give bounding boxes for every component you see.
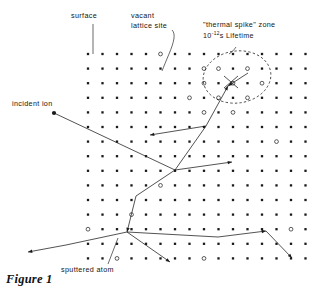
vacant-lattice-site [188,96,192,100]
lattice-atom [261,170,263,172]
lattice-atom [275,82,277,84]
lattice-atom [116,67,118,69]
lattice-atom [87,199,89,201]
lattice-atom [261,97,263,99]
lattice-atom [130,53,132,55]
lattice-atom [130,82,132,84]
lattice-atom [217,111,219,113]
lattice-atom [87,257,89,259]
vacant-lattice-site [217,67,221,71]
vacant-lattice-site [159,184,163,188]
lattice-atom [304,184,306,186]
lattice-atom [188,155,190,157]
vacant-lattice-site [246,96,250,100]
lattice-atom [246,170,248,172]
lattice-atom [145,199,147,201]
lattice-atom [159,140,161,142]
lattice-atom [261,111,263,113]
lattice-atom [130,67,132,69]
label-surface: surface [71,11,97,20]
lattice-atom [217,170,219,172]
lattice-atom [290,213,292,215]
lattice-atom [159,199,161,201]
lattice-atom [203,170,205,172]
lattice-atom [304,155,306,157]
lattice-atom [87,140,89,142]
lattice-atom [130,155,132,157]
lattice-atom [87,170,89,172]
recoil-arrowhead [150,133,154,136]
lattice-atom [101,184,103,186]
label-thermal-spike-zone: "thermal spike" zone [203,20,275,29]
lattice-atom [116,53,118,55]
lattice-atom [203,53,205,55]
lattice-atom [232,170,234,172]
lattice-atom [188,257,190,259]
lattice-atom [217,126,219,128]
lattice-atom [246,213,248,215]
lattice-atom [217,184,219,186]
lattice-atom [101,67,103,69]
lattice-atom [290,53,292,55]
lattice-atom [174,213,176,215]
lattice-atom [203,97,205,99]
lattice-atom [174,97,176,99]
lattice-atom [130,97,132,99]
lattice-atom [174,184,176,186]
lattice-atom [203,199,205,201]
lattice-atom [101,243,103,245]
lattice-atom [116,155,118,157]
cascade-track-branch-left-recoil [150,126,206,135]
lattice-atom [304,111,306,113]
label-sputtered-atom: sputtered atom [61,265,114,274]
lattice-atom [130,111,132,113]
cascade-track-branch-down [136,170,175,196]
lattice-atom [130,184,132,186]
lattice-atom [159,111,161,113]
label-incident-ion: incident ion [12,99,53,108]
cascade-track-group [28,73,292,262]
lattice-atom [145,111,147,113]
lattice-atom [217,213,219,215]
label-thermal-spike-lifetime: 10-12s Lifetime [203,31,254,40]
lattice-atom [130,243,132,245]
lattice-atom [159,257,161,259]
vacant-lattice-site [159,52,163,56]
lattice-atom [188,111,190,113]
lattice-atom [261,184,263,186]
lattice-atom [275,257,277,259]
lattice-atom [304,228,306,230]
lattice-atom [290,243,292,245]
lattice-atom [145,257,147,259]
lattice-atom [145,82,147,84]
collision-cascade-diagram: surface vacant lattice site "thermal spi… [0,0,316,295]
lattice-atom [275,213,277,215]
lattice-atom [275,170,277,172]
lattice-atom [261,140,263,142]
lattice-atom [304,97,306,99]
lattice-atom [304,67,306,69]
lattice-atom [101,126,103,128]
lattice-atom [116,184,118,186]
lattice-atom [304,243,306,245]
lattice-atom [217,82,219,84]
lattice-atom [159,155,161,157]
lattice-atom [174,155,176,157]
recoil-arrowheads-group [28,82,292,262]
lattice-atom [159,228,161,230]
figure-caption: Figure 1 [6,272,52,287]
lattice-atom [275,228,277,230]
lattice-atom [87,111,89,113]
lattice-atom [159,97,161,99]
lattice-atom [159,67,161,69]
lattice-atom [87,184,89,186]
lattice-atom [232,67,234,69]
lattice-atom [261,67,263,69]
lattice-atom [290,67,292,69]
lattice-atom [87,126,89,128]
lattice-atom [174,228,176,230]
lattice-atom [101,170,103,172]
lattice-atom [290,199,292,201]
lattice-atom [159,213,161,215]
lattice-atom [145,126,147,128]
